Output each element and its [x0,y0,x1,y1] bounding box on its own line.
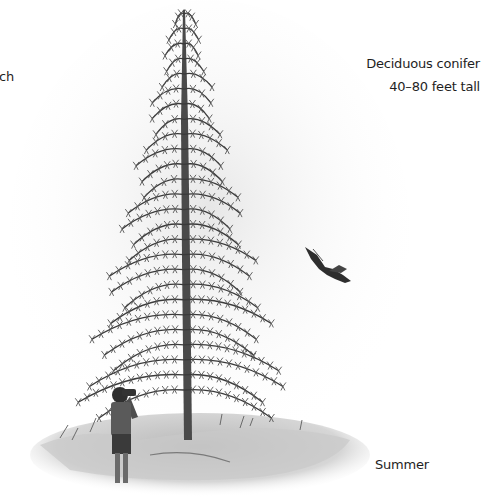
tree-name-fragment: ch [0,69,14,84]
season-label: Summer [375,457,429,472]
height-range-label: 40–80 feet tall [366,75,480,98]
tree-type-label: Deciduous conifer [366,52,480,75]
ground [30,413,370,497]
tree-description: Deciduous conifer 40–80 feet tall [366,52,480,98]
